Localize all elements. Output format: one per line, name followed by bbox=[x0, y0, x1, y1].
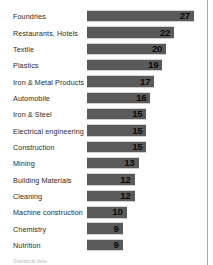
bar-track: 15 bbox=[87, 124, 146, 136]
bar-value-label: 13 bbox=[124, 158, 138, 168]
bar-category-label: Mining bbox=[13, 160, 35, 168]
bar-value-label: 15 bbox=[132, 109, 146, 119]
bar: 15 bbox=[87, 141, 146, 153]
bar: 19 bbox=[87, 59, 162, 71]
bar: 15 bbox=[87, 108, 146, 120]
bar: 17 bbox=[87, 75, 154, 87]
bar-track: 19 bbox=[87, 59, 162, 71]
bar: 22 bbox=[87, 26, 174, 38]
bar-category-label: Automobile bbox=[13, 95, 50, 103]
bar-category-label: Nutrition bbox=[13, 242, 41, 250]
bar-value-label: 19 bbox=[148, 60, 162, 70]
bar-row: Textile20 bbox=[0, 42, 207, 58]
bar-category-label: Iron & Metal Products bbox=[13, 79, 84, 87]
bar: 16 bbox=[87, 92, 150, 104]
bar-track: 15 bbox=[87, 108, 146, 120]
bar-category-label: Building Materials bbox=[13, 177, 72, 185]
bar-track: 10 bbox=[87, 206, 127, 218]
bar-row: Mining13 bbox=[0, 156, 207, 172]
bar-row: Foundries27 bbox=[0, 9, 207, 25]
chart-footnote: Statistical data bbox=[13, 258, 193, 264]
bar-row: Machine construction10 bbox=[0, 205, 207, 221]
bar-row: Nutrition9 bbox=[0, 238, 207, 254]
bar-category-label: Chemistry bbox=[13, 226, 46, 234]
bar: 12 bbox=[87, 173, 135, 185]
right-border-rule bbox=[207, 0, 208, 265]
bar-track: 16 bbox=[87, 92, 150, 104]
bar-category-label: Restaurants, Hotels bbox=[13, 30, 78, 38]
bar: 12 bbox=[87, 190, 135, 202]
bar-track: 9 bbox=[87, 222, 123, 234]
bar-category-label: Cleaning bbox=[13, 193, 42, 201]
bar-value-label: 9 bbox=[114, 240, 123, 250]
bar-track: 15 bbox=[87, 141, 146, 153]
bar-value-label: 12 bbox=[120, 175, 134, 185]
bar-value-label: 17 bbox=[140, 77, 154, 87]
bar-track: 20 bbox=[87, 43, 166, 55]
bar-value-label: 15 bbox=[132, 142, 146, 152]
bar-track: 12 bbox=[87, 190, 135, 202]
bar: 27 bbox=[87, 10, 194, 22]
bar-row: Chemistry9 bbox=[0, 221, 207, 237]
bar-value-label: 22 bbox=[160, 28, 174, 38]
bar: 15 bbox=[87, 124, 146, 136]
bar: 13 bbox=[87, 157, 139, 169]
bar-value-label: 15 bbox=[132, 126, 146, 136]
bar-track: 22 bbox=[87, 26, 174, 38]
bar-chart: Foundries27Restaurants, Hotels22Textile2… bbox=[0, 0, 213, 265]
bar-value-label: 12 bbox=[120, 191, 134, 201]
bar: 10 bbox=[87, 206, 127, 218]
bar-category-label: Electrical engineering bbox=[13, 128, 84, 136]
bar-value-label: 10 bbox=[112, 207, 126, 217]
bar-track: 17 bbox=[87, 75, 154, 87]
bar-track: 27 bbox=[87, 10, 194, 22]
bar-value-label: 20 bbox=[152, 44, 166, 54]
bar-track: 13 bbox=[87, 157, 139, 169]
bar-track: 12 bbox=[87, 173, 135, 185]
bar-category-label: Machine construction bbox=[13, 209, 83, 217]
bar-row: Electrical engineering15 bbox=[0, 123, 207, 139]
bar: 9 bbox=[87, 222, 123, 234]
bar: 9 bbox=[87, 239, 123, 251]
bar-category-label: Construction bbox=[13, 144, 55, 152]
bar-row: Iron & Steel15 bbox=[0, 107, 207, 123]
bar-track: 9 bbox=[87, 239, 123, 251]
bar-rows: Foundries27Restaurants, Hotels22Textile2… bbox=[0, 9, 207, 254]
bar-row: Plastics19 bbox=[0, 58, 207, 74]
bar-row: Restaurants, Hotels22 bbox=[0, 25, 207, 41]
bar-category-label: Textile bbox=[13, 46, 34, 54]
bar-row: Iron & Metal Products17 bbox=[0, 74, 207, 90]
bar-row: Cleaning12 bbox=[0, 189, 207, 205]
bar-category-label: Iron & Steel bbox=[13, 111, 52, 119]
bar-value-label: 16 bbox=[136, 93, 150, 103]
bar-value-label: 9 bbox=[114, 224, 123, 234]
bar-row: Automobile16 bbox=[0, 91, 207, 107]
bar-category-label: Foundries bbox=[13, 13, 46, 21]
bar: 20 bbox=[87, 43, 166, 55]
bar-row: Construction15 bbox=[0, 140, 207, 156]
bar-row: Building Materials12 bbox=[0, 172, 207, 188]
bar-value-label: 27 bbox=[180, 11, 194, 21]
bar-category-label: Plastics bbox=[13, 62, 39, 70]
